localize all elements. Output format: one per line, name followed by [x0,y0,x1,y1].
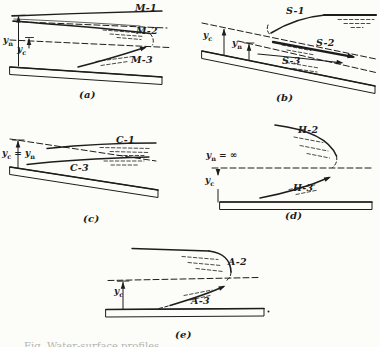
critical-depth-line [10,40,169,48]
curve-m2 [13,21,150,34]
curve-label-a2: A-2 [228,257,247,267]
depth-label-yc: yc [17,45,26,56]
depth-label-yc: yc [203,31,212,42]
curve-label-m2: M-2 [136,26,158,36]
critical-transition-dash [267,25,271,36]
curve-label-s3: S-3 [282,56,301,66]
panel-e-tag: (e) [175,330,192,340]
m3-arrowhead-icon [140,45,148,52]
yn-arrowhead-icon [247,44,252,51]
panel-a-mild-slope: M-1 M-2 M-3 yn yc (a) [0,0,190,110]
curve-label-a3: A-3 [191,296,210,306]
curve-label-c3: C-3 [70,163,89,173]
yc-arrowhead-icon [27,38,32,45]
yc-arrowhead-icon [222,29,227,36]
depth-label-yc: yc [114,287,123,298]
panel-b-tag: (b) [276,93,293,103]
depth-label-yc: yc [205,176,214,187]
depth-label-yc-equals-yn: yc = yn [2,149,35,160]
upstream-surface-line [132,249,209,252]
curve-label-m3: M-3 [131,55,153,65]
curve-label-h2: H-2 [298,125,318,135]
critical-transition-dash [333,156,337,168]
figure-caption-clipped: Fig. Water-surface profiles. [24,341,356,347]
h3-arrowhead-icon [324,175,332,182]
panel-b-steep-slope: S-1 S-2 S-3 yc yn (b) [190,0,380,110]
curve-label-s1: S-1 [286,6,305,16]
normal-depth-line [238,41,378,73]
critical-depth-line [202,23,376,59]
channel-bed-line [106,309,264,310]
curve-label-s2: S-2 [316,38,335,48]
curve-s1 [271,15,325,33]
curve-label-m1: M-1 [135,3,157,13]
panel-d-tag: (d) [285,211,302,221]
critical-transition-dash [227,272,232,281]
yc-arrowhead-icon [216,169,221,176]
a3-dashed-lead [159,306,170,309]
panel-c-tag: (c) [83,214,99,224]
critical-depth-line [108,278,258,281]
curve-label-c1: C-1 [116,135,135,145]
figure-water-surface-profiles: M-1 M-2 M-3 yn yc (a) [0,0,380,347]
panel-d-horizontal-slope: H-2 H-3 yn = ∞ yc (d) [190,110,380,230]
period-dot [268,311,270,313]
panel-a-tag: (a) [79,90,96,100]
channel-bed-hatch [220,202,372,210]
depth-label-yn: yn [3,36,13,47]
panel-e-adverse-slope: A-2 A-3 yc (e) [90,225,290,347]
depth-label-yn: yn [232,39,242,50]
curve-label-h3: H-3 [293,183,313,193]
depth-label-yn-infinity: yn = ∞ [206,151,237,162]
panel-c-critical-slope: C-1 C-3 yc = yn (c) [0,110,190,230]
depth-arrowhead-icon [16,141,21,148]
a3-arrowhead-icon [218,284,226,291]
panel-c-drawing [0,110,190,230]
